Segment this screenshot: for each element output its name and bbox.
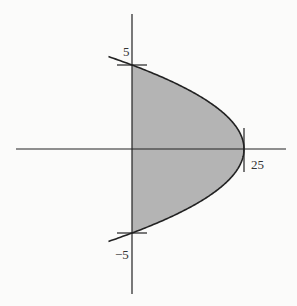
parabola-chart: 5 −5 25 (0, 0, 297, 306)
label-x-25: 25 (251, 157, 264, 172)
label-y-neg5: −5 (115, 247, 129, 262)
label-y-5: 5 (123, 44, 130, 59)
plot-area: 5 −5 25 (0, 0, 297, 306)
